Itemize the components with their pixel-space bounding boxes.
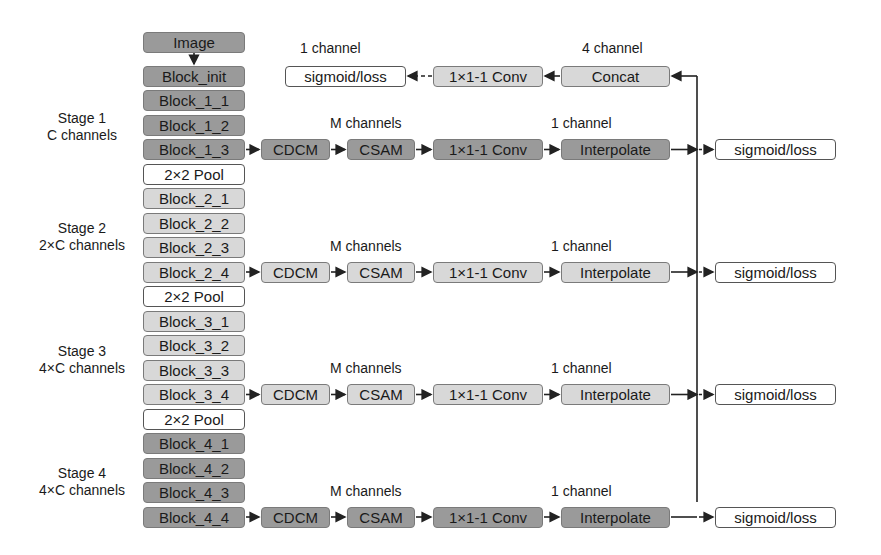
concat-block: Concat <box>561 66 670 87</box>
stage-label: Stage 44×C channels <box>22 465 142 499</box>
block-init: Block_init <box>143 66 245 87</box>
pool-block: 2×2 Pool <box>143 286 245 307</box>
interpolate-block: Interpolate <box>561 507 670 528</box>
side-sigmoid-loss: sigmoid/loss <box>715 262 836 283</box>
stage-channels: 4×C channels <box>22 482 142 499</box>
fusion-output-channel-label: 1 channel <box>300 40 361 56</box>
interpolate-block: Interpolate <box>561 262 670 283</box>
m-channels-label: M channels <box>330 115 402 131</box>
pool-block: 2×2 Pool <box>143 409 245 430</box>
stage-channels: C channels <box>22 127 142 144</box>
stage-title: Stage 1 <box>22 110 142 127</box>
backbone-block: Block_4_4 <box>143 507 245 528</box>
backbone-block: Block_2_2 <box>143 213 245 234</box>
backbone-block: Block_4_2 <box>143 458 245 479</box>
fusion-sigmoid-loss: sigmoid/loss <box>285 66 406 87</box>
side-conv-block: 1×1-1 Conv <box>433 384 543 405</box>
one-channel-label: 1 channel <box>551 360 612 376</box>
backbone-block: Block_3_3 <box>143 360 245 381</box>
backbone-block: Block_2_3 <box>143 237 245 258</box>
one-channel-label: 1 channel <box>551 115 612 131</box>
cdcm-block: CDCM <box>261 384 330 405</box>
one-channel-label: 1 channel <box>551 483 612 499</box>
m-channels-label: M channels <box>330 238 402 254</box>
interpolate-block: Interpolate <box>561 139 670 160</box>
m-channels-label: M channels <box>330 360 402 376</box>
stage-label: Stage 22×C channels <box>22 220 142 254</box>
interpolate-block: Interpolate <box>561 384 670 405</box>
csam-block: CSAM <box>347 384 415 405</box>
csam-block: CSAM <box>347 262 415 283</box>
side-conv-block: 1×1-1 Conv <box>433 262 543 283</box>
stage-channels: 4×C channels <box>22 360 142 377</box>
one-channel-label: 1 channel <box>551 238 612 254</box>
side-conv-block: 1×1-1 Conv <box>433 139 543 160</box>
backbone-block: Block_1_3 <box>143 139 245 160</box>
stage-label: Stage 34×C channels <box>22 343 142 377</box>
backbone-block: Block_3_2 <box>143 335 245 356</box>
csam-block: CSAM <box>347 139 415 160</box>
cdcm-block: CDCM <box>261 139 330 160</box>
backbone-block: Block_1_2 <box>143 115 245 136</box>
stage-title: Stage 4 <box>22 465 142 482</box>
stage-label: Stage 1C channels <box>22 110 142 144</box>
backbone-block: Block_4_3 <box>143 482 245 503</box>
backbone-block: Block_2_1 <box>143 188 245 209</box>
stage-title: Stage 3 <box>22 343 142 360</box>
image-input-block: Image <box>143 32 245 53</box>
csam-block: CSAM <box>347 507 415 528</box>
stage-title: Stage 2 <box>22 220 142 237</box>
m-channels-label: M channels <box>330 483 402 499</box>
backbone-block: Block_2_4 <box>143 262 245 283</box>
cdcm-block: CDCM <box>261 507 330 528</box>
fusion-conv-block: 1×1-1 Conv <box>433 66 543 87</box>
stage-channels: 2×C channels <box>22 237 142 254</box>
side-sigmoid-loss: sigmoid/loss <box>715 507 836 528</box>
side-conv-block: 1×1-1 Conv <box>433 507 543 528</box>
concat-channel-label: 4 channel <box>582 40 643 56</box>
backbone-block: Block_3_4 <box>143 384 245 405</box>
side-sigmoid-loss: sigmoid/loss <box>715 139 836 160</box>
pool-block: 2×2 Pool <box>143 164 245 185</box>
backbone-block: Block_3_1 <box>143 311 245 332</box>
cdcm-block: CDCM <box>261 262 330 283</box>
backbone-block: Block_1_1 <box>143 90 245 111</box>
backbone-block: Block_4_1 <box>143 433 245 454</box>
side-sigmoid-loss: sigmoid/loss <box>715 384 836 405</box>
